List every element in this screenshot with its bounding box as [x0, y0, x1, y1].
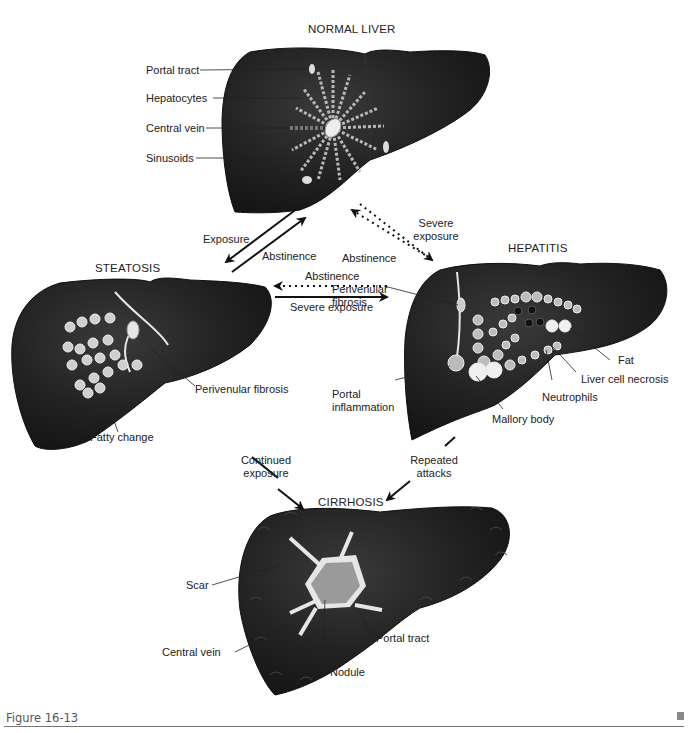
label-portal-inflammation: Portal inflammation: [332, 388, 400, 414]
label-portal-tract: Portal tract: [146, 64, 199, 77]
normal-liver-title: NORMAL LIVER: [308, 23, 396, 36]
transition-continued-exposure: Continued exposure: [236, 454, 296, 480]
transition-severe-exposure-steatosis-to-hepatitis: Severe exposure: [290, 301, 373, 314]
transition-abstinence-hepatitis-to-steatosis: Abstinence: [305, 270, 359, 283]
label-fatty-change: Fatty change: [90, 431, 154, 444]
label-nodule: Nodule: [330, 666, 365, 679]
label-central-vein: Central vein: [146, 122, 205, 135]
label-sinusoids: Sinusoids: [146, 152, 194, 165]
liver-disease-diagram: [0, 0, 688, 733]
transition-severe-exposure-to-hepatitis: Severe exposure: [410, 217, 462, 243]
label-neutrophils: Neutrophils: [542, 391, 598, 404]
figure-caption: Figure 16-13: [6, 711, 78, 725]
label-central-vein-cirrhosis: Central vein: [162, 646, 221, 659]
transition-abstinence-from-steatosis: Abstinence: [262, 250, 316, 263]
transition-exposure: Exposure: [203, 233, 249, 246]
label-mallory-body: Mallory body: [492, 413, 554, 426]
end-marker-icon: [677, 712, 684, 720]
label-fat: Fat: [618, 354, 634, 367]
transition-repeated-attacks: Repeated attacks: [408, 454, 460, 480]
label-perivenular-fibrosis-steatosis: Perivenular fibrosis: [195, 383, 289, 396]
hepatitis-title: HEPATITIS: [508, 242, 568, 255]
cirrhosis-title: CIRRHOSIS: [318, 496, 384, 509]
normal-liver-illustration: [196, 48, 490, 213]
caption-divider: [4, 726, 684, 727]
label-liver-cell-necrosis: Liver cell necrosis: [581, 373, 668, 386]
transition-abstinence-from-hepatitis: Abstinence: [342, 252, 396, 265]
steatosis-title: STEATOSIS: [95, 262, 160, 275]
label-portal-tract-cirrhosis: Portal tract: [376, 632, 429, 645]
label-scar: Scar: [186, 579, 209, 592]
steatosis-liver-illustration: [12, 278, 272, 449]
label-hepatocytes: Hepatocytes: [146, 92, 207, 105]
